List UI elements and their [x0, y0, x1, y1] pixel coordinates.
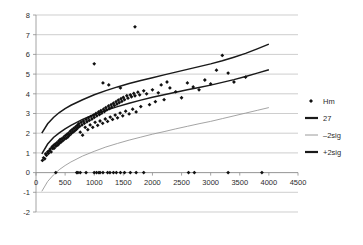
scatter-chart: 050010001500200025003000350040004500 -2-…	[0, 0, 363, 245]
legend-label: Hm	[323, 97, 335, 106]
y-tick-label: -2	[23, 208, 30, 217]
x-tick-label: 4500	[290, 178, 307, 187]
x-tick-label: 3000	[202, 178, 219, 187]
x-tick-label: 3500	[231, 178, 248, 187]
y-tick-label: 0	[26, 168, 30, 177]
x-tick-label: 2000	[144, 178, 161, 187]
y-tick-label: 8	[26, 11, 30, 20]
y-tick-label: 7	[26, 31, 30, 40]
chart-canvas: 050010001500200025003000350040004500 -2-…	[0, 0, 363, 245]
x-tick-label: 1500	[115, 178, 132, 187]
y-tick-label: -1	[23, 188, 30, 197]
legend-label: –2sig	[323, 131, 341, 140]
chart-background	[0, 0, 363, 245]
y-tick-label: 2	[26, 129, 30, 138]
legend-label: 27	[323, 114, 331, 123]
y-tick-label: 5	[26, 70, 30, 79]
x-tick-label: 0	[34, 178, 38, 187]
x-tick-label: 4000	[261, 178, 278, 187]
legend-label: +2sig	[323, 148, 341, 157]
y-tick-label: 1	[26, 149, 30, 158]
x-tick-label: 1000	[86, 178, 103, 187]
x-tick-label: 2500	[173, 178, 190, 187]
x-tick-label: 500	[59, 178, 72, 187]
y-tick-label: 3	[26, 109, 30, 118]
y-tick-label: 6	[26, 50, 30, 59]
y-tick-label: 4	[26, 90, 30, 99]
